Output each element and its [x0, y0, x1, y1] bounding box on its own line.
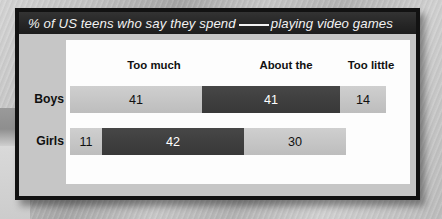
column-header-line1: Too little	[316, 59, 426, 73]
chart-row-boys: Boys 41 41 14	[66, 86, 410, 113]
bar-segment-boys-too-little-time[interactable]: 14	[340, 86, 386, 113]
bar-segment-girls-too-little-time[interactable]: 30	[244, 128, 346, 155]
chart-title-after: playing video games	[271, 16, 393, 31]
bar-value: 42	[166, 135, 180, 149]
chart-title-bar: % of US teens who say they spendplaying …	[19, 12, 416, 34]
chart-row-girls: Girls 11 42 30	[66, 128, 410, 155]
bar-value: 14	[356, 93, 370, 107]
column-header-row: Too much time About the right time Too l…	[66, 40, 410, 78]
column-header-line1: Too much	[84, 59, 224, 73]
bar-segment-girls-about-right-time[interactable]: 42	[102, 128, 244, 155]
bar-value: 30	[288, 135, 302, 149]
bar-value: 11	[79, 135, 92, 149]
chart-title-before: % of US teens who say they spend	[28, 16, 236, 31]
row-label-boys: Boys	[20, 86, 64, 113]
row-label-girls: Girls	[20, 128, 64, 155]
chart-body: Too much time About the right time Too l…	[19, 34, 416, 196]
screenshot-root: % of US teens who say they spendplaying …	[0, 0, 442, 219]
chart-frame: % of US teens who say they spendplaying …	[15, 8, 420, 200]
chart-inner: % of US teens who say they spendplaying …	[19, 12, 416, 196]
bar-segment-boys-about-right-time[interactable]: 41	[202, 86, 340, 113]
bar-segment-girls-too-much-time[interactable]: 11	[70, 128, 102, 155]
bar-value: 41	[264, 93, 278, 107]
bar-segment-boys-too-much-time[interactable]: 41	[70, 86, 202, 113]
chart-title-blank	[239, 15, 269, 26]
chart-plot-panel: Too much time About the right time Too l…	[66, 40, 410, 184]
bar-value: 41	[129, 93, 143, 107]
chart-title: % of US teens who say they spendplaying …	[28, 15, 393, 31]
